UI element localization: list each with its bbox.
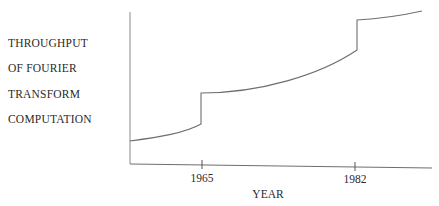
throughput-curve [130, 11, 422, 141]
x-tick-label-1965: 1965 [191, 172, 214, 184]
x-axis-label: YEAR [252, 188, 283, 200]
x-axis-line [130, 164, 432, 168]
x-tick-label-1982: 1982 [344, 173, 367, 185]
chart-plot [0, 0, 439, 206]
